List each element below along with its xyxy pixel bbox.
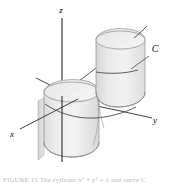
figure-container: z x y C FIGURE 15 The cylinder x² + y² =… xyxy=(0,0,170,185)
cylinder-lobe-left xyxy=(38,80,99,160)
figure-caption-text: FIGURE 15 The cylinder x² + y² = 1 and c… xyxy=(3,177,146,184)
left-lobe-back-sliver xyxy=(38,98,44,160)
left-lobe-top-cap xyxy=(44,82,99,102)
three-d-figure-svg: z x y C xyxy=(0,0,170,185)
x-axis-label: x xyxy=(9,129,14,139)
figure-caption-strip: FIGURE 15 The cylinder x² + y² = 1 and c… xyxy=(0,177,170,185)
y-axis-label: y xyxy=(152,115,157,125)
z-axis-label: z xyxy=(58,5,63,15)
curve-c-label: C xyxy=(152,43,159,54)
y-axis-line-front xyxy=(116,110,152,118)
cylinder-lobe-right xyxy=(96,29,145,107)
